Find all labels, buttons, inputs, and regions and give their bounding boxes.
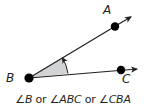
label-c: C (122, 73, 130, 85)
label-b: B (6, 72, 14, 84)
angle-diagram: A B C ∠B or ∠ABC or ∠CBA (0, 0, 146, 111)
point-a (111, 22, 119, 30)
or-text: or (32, 93, 49, 106)
angle-name-cba: CBA (109, 93, 131, 106)
angle-symbol: ∠ (99, 93, 109, 106)
vertex-point-b (24, 73, 33, 82)
angle-symbol: ∠ (50, 93, 60, 106)
angle-symbol: ∠ (15, 93, 25, 106)
angle-name-abc: ABC (59, 93, 81, 106)
label-a: A (103, 4, 111, 16)
angle-caption: ∠B or ∠ABC or ∠CBA (0, 93, 146, 106)
or-text: or (82, 93, 99, 106)
